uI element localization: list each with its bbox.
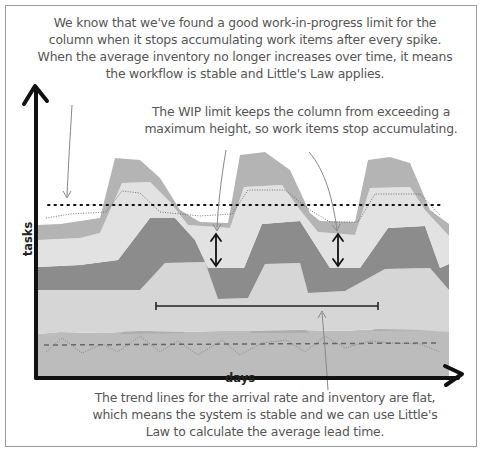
annotation-trend-lines: The trend lines for the arrival rate and… (90, 389, 440, 440)
annotation-wip-limit: The WIP limit keeps the column from exce… (142, 103, 460, 137)
y-axis-label: tasks (21, 219, 35, 259)
annotation-top: We know that we've found a good work-in-… (30, 14, 460, 82)
x-axis-label: days (225, 371, 255, 385)
